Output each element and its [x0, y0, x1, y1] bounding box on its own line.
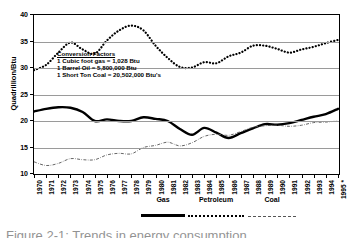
y-tick-label: 35 [20, 37, 28, 44]
x-tick-mark [277, 175, 278, 178]
x-tick-label: 1982 [183, 180, 190, 195]
y-tick-label: 15 [20, 143, 28, 150]
x-tick-label: 1980 [159, 180, 166, 195]
x-tick-label: 1995 * [341, 180, 348, 199]
x-tick-mark [265, 175, 266, 178]
x-tick-mark [192, 175, 193, 178]
x-tick-mark [314, 175, 315, 178]
x-tick-mark [289, 175, 290, 178]
series-line-coal [34, 121, 338, 166]
conversion-factors-annotation: Conversion Factors 1 Cubic foot gas = 1,… [57, 50, 161, 78]
x-tick-label: 1989 [268, 180, 275, 195]
x-tick-mark [253, 175, 254, 178]
x-tick-label: 1991 [292, 180, 299, 195]
x-tick-mark [180, 175, 181, 178]
y-tick-label: 40 [20, 11, 28, 18]
x-tick-mark [70, 175, 71, 178]
legend-entry-coal: Coal [248, 196, 296, 217]
y-tick-label: 20 [20, 117, 28, 124]
x-tick-mark [338, 175, 339, 178]
conversion-factor-line: 1 Barrel Oil = 5,800,000 Btu [57, 64, 161, 71]
y-tick-label: 25 [20, 90, 28, 97]
x-tick-mark [119, 175, 120, 178]
x-tick-label: 1972 [61, 180, 68, 195]
x-tick-label: 1992 [305, 180, 312, 195]
legend-swatch-coal [248, 216, 296, 217]
conversion-factor-line: 1 Short Ton Coal = 20,502,000 Btu's [57, 71, 161, 78]
x-tick-mark [156, 175, 157, 178]
x-tick-label: 1970 [37, 180, 44, 195]
gridline [34, 95, 339, 96]
legend-label: Coal [248, 196, 296, 204]
x-tick-label: 1976 [110, 180, 117, 195]
x-tick-mark [241, 175, 242, 178]
x-tick-mark [216, 175, 217, 178]
x-tick-label: 1984 [207, 180, 214, 195]
y-axis: Quadrillion/Btu 10152025303540 [0, 0, 33, 189]
legend-entry-petroleum: Petroleum [188, 196, 244, 217]
x-tick-label: 1994 [329, 180, 336, 195]
x-tick-mark [95, 175, 96, 178]
x-tick-mark [58, 175, 59, 178]
x-tick-mark [302, 175, 303, 178]
x-tick-label: 1974 [86, 180, 93, 195]
x-tick-label: 1990 [280, 180, 287, 195]
x-tick-mark [107, 175, 108, 178]
x-tick-label: 1993 [317, 180, 324, 195]
x-tick-mark [168, 175, 169, 178]
plot-area [33, 14, 340, 175]
figure-caption: Figure 2-1: Trends in energy consumption [6, 228, 247, 238]
x-tick-label: 1985 [219, 180, 226, 195]
x-tick-mark [46, 175, 47, 178]
y-tick-label: 30 [20, 64, 28, 71]
x-tick-label: 1977 [122, 180, 129, 195]
gridline [34, 42, 339, 43]
x-tick-mark [143, 175, 144, 178]
series-line-gas [34, 107, 338, 138]
x-tick-mark [131, 175, 132, 178]
y-axis-title: Quadrillion/Btu [9, 29, 18, 139]
chart-figure: Quadrillion/Btu 10152025303540 Conversio… [0, 0, 356, 238]
x-tick-label: 1978 [134, 180, 141, 195]
x-tick-mark [83, 175, 84, 178]
x-tick-mark [326, 175, 327, 178]
x-tick-label: 1971 [49, 180, 56, 195]
gridline [34, 148, 339, 149]
chart-legend: Gas Petroleum Coal [33, 196, 340, 220]
legend-swatch-petroleum [188, 215, 244, 217]
x-tick-label: 1988 [256, 180, 263, 195]
x-tick-label: 1981 [171, 180, 178, 195]
x-tick-label: 1983 [195, 180, 202, 195]
x-tick-label: 1975 [98, 180, 105, 195]
legend-label: Petroleum [188, 196, 244, 204]
x-tick-label: 1973 [73, 180, 80, 195]
conversion-factors-title: Conversion Factors [57, 50, 161, 57]
legend-label: Gas [141, 196, 185, 204]
x-tick-label: 1979 [146, 180, 153, 195]
x-tick-mark [34, 175, 35, 178]
conversion-factor-line: 1 Cubic foot gas = 1,028 Btu [57, 57, 161, 64]
legend-entry-gas: Gas [141, 196, 185, 221]
gridline [34, 121, 339, 122]
y-tick-label: 10 [20, 170, 28, 177]
x-tick-mark [229, 175, 230, 178]
x-tick-mark [204, 175, 205, 178]
x-tick-label: 1987 [244, 180, 251, 195]
legend-swatch-gas [141, 214, 185, 221]
x-tick-label: 1986 [232, 180, 239, 195]
